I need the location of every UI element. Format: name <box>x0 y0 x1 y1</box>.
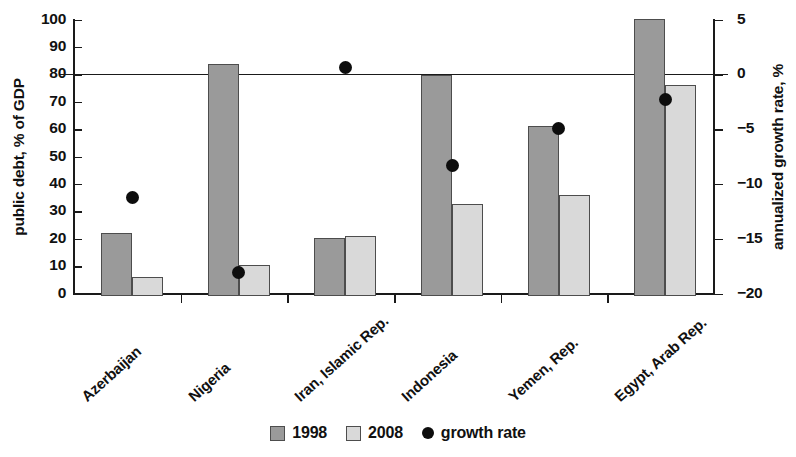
legend-dot-icon <box>422 427 434 439</box>
legend-label: 2008 <box>368 424 403 442</box>
y-left-tick-label: 0 <box>28 284 66 302</box>
x-axis-category-label: Yemen, Rep. <box>505 334 581 405</box>
bar-1998 <box>101 233 132 296</box>
y-left-tick-label: 50 <box>28 147 66 165</box>
x-axis-category-label: Nigeria <box>185 359 233 405</box>
growth-rate-dot <box>552 122 565 135</box>
x-axis-category-label: Egypt, Arab Rep. <box>611 314 709 405</box>
x-axis-category-label: Indonesia <box>398 346 460 404</box>
bar-2008 <box>345 236 376 296</box>
x-axis-category-label: Azerbaijan <box>78 343 144 405</box>
x-axis-tick-mark <box>607 294 609 303</box>
growth-rate-dot <box>446 159 459 172</box>
y-right-tick-label: 0 <box>737 64 779 82</box>
legend-label: growth rate <box>441 424 526 442</box>
y-right-tick-mark <box>714 129 723 131</box>
y-left-tick-label: 20 <box>28 229 66 247</box>
bar-1998 <box>208 64 239 296</box>
legend-label: 1998 <box>292 424 327 442</box>
x-axis-tick-mark <box>181 294 183 303</box>
bar-2008 <box>132 277 163 296</box>
y-left-tick-label: 40 <box>28 174 66 192</box>
bar-1998 <box>421 75 452 296</box>
y-right-tick-label: −20 <box>737 284 779 302</box>
growth-rate-dot <box>339 61 352 74</box>
growth-rate-dot <box>659 93 672 106</box>
y-left-tick-label: 100 <box>28 10 66 28</box>
y-left-tick-label: 60 <box>28 119 66 137</box>
y-right-tick-mark <box>714 184 723 186</box>
x-axis-tick-mark <box>394 294 396 303</box>
bar-1998 <box>634 19 665 296</box>
legend-item: 1998 <box>270 424 327 442</box>
y-right-tick-label: −10 <box>737 174 779 192</box>
y-axis-left-ticks: 1009080706050403020100 <box>28 0 66 457</box>
growth-rate-dot <box>126 191 139 204</box>
y-left-tick-label: 30 <box>28 201 66 219</box>
x-axis-tick-mark <box>501 294 503 303</box>
bar-2008 <box>665 85 696 296</box>
legend-item: growth rate <box>422 424 526 442</box>
bar-2008 <box>452 204 483 296</box>
x-axis-tick-mark <box>287 294 289 303</box>
plot-area <box>74 14 714 296</box>
y-right-tick-mark <box>714 20 723 22</box>
legend-swatch-icon <box>346 426 361 441</box>
bar-1998 <box>528 126 559 296</box>
y-right-tick-label: −15 <box>737 229 779 247</box>
chart-legend: 19982008growth rate <box>0 424 796 442</box>
y-axis-right-ticks: 50−5−10−15−20 <box>720 0 762 457</box>
bar-2008 <box>559 195 590 296</box>
x-axis-category-label: Iran, Islamic Rep. <box>291 312 391 405</box>
y-right-tick-mark <box>714 239 723 241</box>
y-right-tick-label: −5 <box>737 119 779 137</box>
y-right-tick-label: 5 <box>737 10 779 28</box>
legend-item: 2008 <box>346 424 403 442</box>
bar-1998 <box>314 238 345 296</box>
y-left-tick-label: 10 <box>28 256 66 274</box>
chart-container: public debt, % of GDP annualized growth … <box>0 0 796 457</box>
y-right-tick-mark <box>714 294 723 296</box>
y-left-tick-label: 70 <box>28 92 66 110</box>
legend-swatch-icon <box>270 426 285 441</box>
y-axis-left-title: public debt, % of GDP <box>10 52 28 262</box>
y-left-tick-label: 90 <box>28 37 66 55</box>
